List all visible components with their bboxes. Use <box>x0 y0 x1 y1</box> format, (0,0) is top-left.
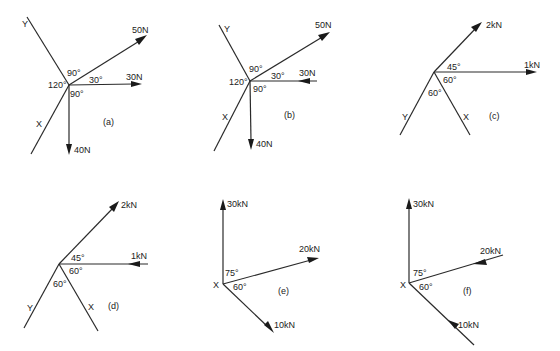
angle-75: 75° <box>225 268 239 278</box>
panel-d: Y X 2kN 1kN 45° 60° 60° (d) <box>24 200 148 331</box>
angle-45: 45° <box>447 62 461 72</box>
angle-30: 30° <box>271 71 285 81</box>
x-point-label: X <box>213 280 219 290</box>
force-label-20kn: 20kN <box>480 246 501 256</box>
angle-60-right: 60° <box>443 75 457 85</box>
force-label-40n: 40N <box>74 145 91 155</box>
panel-label: (b) <box>284 110 295 120</box>
x-axis-label: X <box>463 112 469 122</box>
angle-30: 30° <box>89 75 103 85</box>
angle-60-left: 60° <box>53 279 67 289</box>
arrowhead-20kn <box>307 257 319 263</box>
force-label-1kn: 1kN <box>524 60 540 70</box>
force-label-1kn: 1kN <box>131 251 147 261</box>
force-label-2kn: 2kN <box>486 20 502 30</box>
angle-90-lower: 90° <box>70 89 84 99</box>
y-axis-label: Y <box>22 19 28 29</box>
arrowhead-50n <box>135 35 147 45</box>
force-label-30kn: 30kN <box>413 199 434 209</box>
force-2kn-line <box>59 207 114 264</box>
panel-label: (e) <box>278 286 289 296</box>
panel-c: Y X 2kN 1kN 45° 60° 60° (c) <box>400 20 540 135</box>
force-label-20kn: 20kN <box>299 244 320 254</box>
arrowhead-30n <box>298 78 310 84</box>
force-label-40n: 40N <box>256 139 273 149</box>
force-diagrams: Y X 50N 30N 40N 90° 30° 120° 90° (a) Y X… <box>0 0 560 351</box>
y-axis-line <box>24 264 59 328</box>
x-point-label: X <box>400 280 406 290</box>
force-label-10kn: 10kN <box>458 320 479 330</box>
y-axis-line <box>27 17 69 85</box>
angle-60: 60° <box>419 282 433 292</box>
y-axis-line <box>400 72 434 135</box>
force-label-10kn: 10kN <box>274 320 295 330</box>
angle-60: 60° <box>233 282 247 292</box>
panel-label: (f) <box>463 286 472 296</box>
arrowhead-40n <box>248 139 254 150</box>
panel-label: (a) <box>103 117 114 127</box>
force-label-30kn: 30kN <box>227 199 248 209</box>
arrowhead-50n <box>318 32 330 41</box>
force-label-50n: 50N <box>315 20 332 30</box>
angle-120: 120° <box>48 80 67 90</box>
x-axis-line <box>214 81 250 151</box>
panel-f: X 30kN 20kN 10kN 75° 60° (f) <box>400 198 503 345</box>
panel-b: Y X 50N 30N 40N 90° 30° 120° 90° (b) <box>214 20 332 151</box>
arrowhead-2kn <box>471 22 482 32</box>
arrowhead-10kn <box>264 321 274 333</box>
force-label-30n: 30N <box>126 72 143 82</box>
angle-45: 45° <box>71 253 85 263</box>
angle-90-upper: 90° <box>67 68 81 78</box>
angle-120: 120° <box>229 77 248 87</box>
force-40n-line <box>250 81 251 141</box>
angle-90-upper: 90° <box>249 64 263 74</box>
arrowhead-30kn <box>220 199 226 210</box>
force-label-2kn: 2kN <box>121 200 137 210</box>
panel-a: Y X 50N 30N 40N 90° 30° 120° 90° (a) <box>22 17 149 155</box>
arrowhead-40n <box>66 144 72 155</box>
arrowhead-30kn <box>406 198 412 209</box>
x-axis-label: X <box>36 119 42 129</box>
force-label-30n: 30N <box>299 68 316 78</box>
y-axis-label: Y <box>224 24 230 34</box>
force-label-50n: 50N <box>132 25 149 35</box>
x-axis-label: X <box>88 302 94 312</box>
y-axis-label: Y <box>402 112 408 122</box>
arrowhead-20kn <box>473 259 487 265</box>
panel-label: (c) <box>489 111 500 121</box>
angle-75: 75° <box>413 268 427 278</box>
angle-60-right: 60° <box>69 266 83 276</box>
arrowhead-1kn <box>128 261 140 267</box>
angle-60-left: 60° <box>428 88 442 98</box>
y-axis-label: Y <box>27 303 33 313</box>
panel-label: (d) <box>108 301 119 311</box>
panel-e: X 30kN 20kN 10kN 75° 60° (e) <box>213 199 320 333</box>
x-axis-label: X <box>222 112 228 122</box>
angle-90-lower: 90° <box>253 84 267 94</box>
